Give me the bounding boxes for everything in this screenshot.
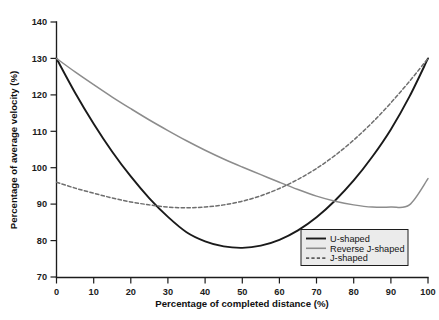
chart-legend[interactable]: U-shaped Reverse J-shaped J-shaped	[301, 230, 408, 266]
x-tick-label: 60	[274, 287, 284, 297]
chart-background	[0, 0, 439, 320]
x-tick-label: 30	[163, 287, 173, 297]
x-tick-label: 100	[420, 287, 435, 297]
y-tick-label: 110	[32, 127, 47, 137]
y-tick-label: 140	[32, 17, 47, 27]
x-tick-label: 90	[386, 287, 396, 297]
legend-label: J-shaped	[330, 253, 368, 263]
legend-label: U-shaped	[330, 234, 370, 244]
y-tick-label: 120	[32, 90, 47, 100]
x-tick-label: 0	[54, 287, 59, 297]
velocity-pacing-line-chart: 140 130 120 110 100 90 80 70 Percentage …	[0, 0, 439, 320]
y-tick-label: 80	[37, 236, 47, 246]
y-tick-label: 130	[32, 54, 47, 64]
x-tick-label: 50	[237, 287, 247, 297]
x-axis-title: Percentage of completed distance (%)	[155, 298, 328, 309]
y-tick-label: 100	[32, 163, 47, 173]
x-tick-label: 10	[89, 287, 99, 297]
x-tick-label: 80	[349, 287, 359, 297]
figure-container: 140 130 120 110 100 90 80 70 Percentage …	[0, 0, 439, 320]
x-tick-label: 70	[311, 287, 321, 297]
y-axis-title: Percentage of average velocity (%)	[8, 71, 19, 229]
legend-label: Reverse J-shaped	[330, 244, 405, 254]
y-tick-label: 90	[37, 199, 47, 209]
y-tick-label: 70	[37, 272, 47, 282]
x-tick-label: 40	[200, 287, 210, 297]
x-tick-label: 20	[126, 287, 136, 297]
